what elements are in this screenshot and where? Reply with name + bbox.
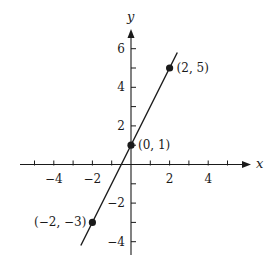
point-label: (2, 5) [177, 61, 209, 75]
coordinate-plane: x y −4−224 642−2−4 (−2, −3)(0, 1)(2, 5) [0, 0, 277, 270]
data-point [166, 64, 173, 71]
x-tick-labels: −4−224 [45, 172, 212, 186]
x-axis-label: x [256, 156, 264, 171]
point-label: (0, 1) [138, 138, 170, 152]
data-point [89, 219, 96, 226]
y-tick-label: 4 [117, 80, 125, 94]
y-axis-arrow-icon [128, 29, 135, 38]
y-axis-label: y [126, 9, 135, 24]
point-label: (−2, −3) [34, 215, 86, 229]
y-tick-labels: 642−2−4 [107, 42, 125, 249]
data-point [127, 142, 134, 149]
x-tick-label: −2 [84, 172, 102, 186]
y-tick-label: 6 [117, 42, 125, 56]
y-tick-label: 2 [117, 119, 125, 133]
x-tick-label: −4 [45, 172, 63, 186]
x-axis-arrow-icon [242, 161, 251, 168]
y-tick-label: −2 [107, 196, 125, 210]
x-tick-label: 4 [204, 172, 212, 186]
y-tick-label: −4 [107, 235, 125, 249]
x-tick-label: 2 [166, 172, 174, 186]
